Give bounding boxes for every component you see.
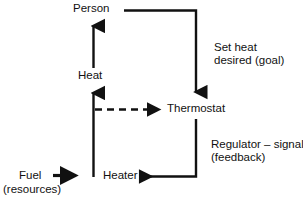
annotation-regulator-line1: Regulator – signal [211, 138, 303, 150]
annotation-set-heat-line1: Set heat [214, 41, 257, 53]
annotation-regulator-signal-feedback: Regulator – signal (feedback) [211, 138, 303, 164]
edge-person-to-thermostat [124, 11, 196, 93]
annotation-regulator-line2: (feedback) [211, 151, 303, 164]
diagram-connectors [0, 0, 303, 200]
diagram-canvas: Person Heat Thermostat Heater Fuel (reso… [0, 0, 303, 200]
node-label-heat: Heat [78, 69, 102, 82]
node-label-thermostat: Thermostat [167, 102, 225, 115]
node-label-resources: (resources) [3, 183, 61, 196]
node-label-person: Person [73, 2, 109, 15]
node-label-fuel: Fuel [19, 169, 41, 182]
node-label-heater: Heater [103, 169, 138, 182]
edge-thermostat-to-heater [150, 119, 196, 177]
annotation-set-heat-desired-goal: Set heat desired (goal) [214, 41, 284, 67]
annotation-set-heat-line2: desired (goal) [214, 54, 284, 67]
